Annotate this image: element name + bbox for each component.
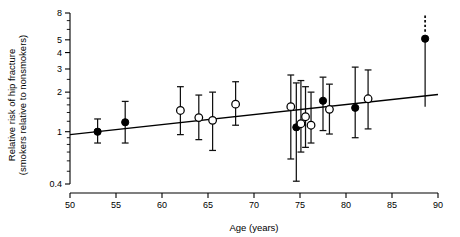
data-point-filled (319, 97, 326, 104)
x-tick-label: 75 (295, 200, 305, 210)
hip-fracture-risk-figure: Relative risk of hip fracture (smokers r… (0, 0, 460, 237)
x-axis-title: Age (years) (229, 222, 278, 233)
x-tick-label: 90 (433, 200, 443, 210)
y-tick-label: 8 (57, 8, 62, 18)
x-tick-label: 85 (387, 200, 397, 210)
data-point-filled (94, 128, 101, 135)
data-point-markers (94, 35, 429, 135)
data-point-open (326, 106, 334, 114)
data-point-open (232, 100, 240, 108)
error-bars-group (94, 14, 425, 181)
y-tick-label: 2 (57, 87, 62, 97)
x-tick-label: 50 (65, 200, 75, 210)
data-point-open (209, 117, 217, 125)
data-point-filled (352, 104, 359, 111)
data-point-open (302, 113, 310, 121)
data-point-open (307, 121, 315, 129)
y-axis-title-line1: Relative risk of hip fracture (6, 49, 17, 161)
x-tick-label: 55 (111, 200, 121, 210)
y-axis-title: Relative risk of hip fracture (smokers r… (6, 35, 28, 175)
x-tick-label: 70 (249, 200, 259, 210)
data-point-open (177, 107, 185, 115)
y-tick-label: 1 (57, 127, 62, 137)
y-tick-label: 0.4 (49, 179, 62, 189)
x-tick-label: 80 (341, 200, 351, 210)
y-tick-label: 3 (57, 64, 62, 74)
y-axis-title-line2: (smokers relative to nonsmokers) (17, 35, 28, 175)
x-tick-label: 60 (157, 200, 167, 210)
data-point-open (364, 95, 372, 103)
y-axis: 0.4123458 (49, 8, 70, 189)
y-tick-label: 5 (57, 35, 62, 45)
x-tick-label: 65 (203, 200, 213, 210)
data-point-open (297, 120, 305, 128)
data-point-open (195, 114, 203, 122)
scatter-plot-svg: Relative risk of hip fracture (smokers r… (0, 0, 460, 237)
y-tick-label: 4 (57, 48, 62, 58)
x-axis: 505560657075808590 (65, 193, 443, 210)
data-point-open (287, 103, 295, 111)
data-point-filled (122, 119, 129, 126)
data-point-filled (422, 35, 429, 42)
